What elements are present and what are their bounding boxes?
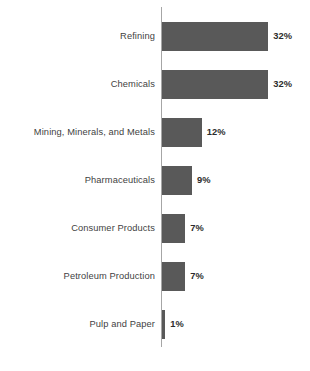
bar: [162, 22, 268, 51]
bar: [162, 262, 185, 291]
bar-value-label: 12%: [207, 108, 226, 156]
category-label: Pharmaceuticals: [85, 156, 155, 204]
bar-value-label: 7%: [190, 252, 204, 300]
category-label: Mining, Minerals, and Metals: [34, 108, 155, 156]
plot-area: Refining32%Chemicals32%Mining, Minerals,…: [0, 0, 310, 352]
bar-value-label: 32%: [273, 60, 292, 108]
bar-value-label: 1%: [170, 300, 184, 348]
bar: [162, 310, 165, 339]
bar-row: Refining32%: [0, 12, 310, 60]
category-label: Chemicals: [111, 60, 155, 108]
bar-row: Pharmaceuticals9%: [0, 156, 310, 204]
bar: [162, 118, 202, 147]
bar-row: Consumer Products7%: [0, 204, 310, 252]
bar: [162, 166, 192, 195]
bar-row: Pulp and Paper1%: [0, 300, 310, 348]
category-label: Refining: [120, 12, 155, 60]
category-label: Pulp and Paper: [90, 300, 156, 348]
bar-row: Mining, Minerals, and Metals12%: [0, 108, 310, 156]
horizontal-bar-chart: Refining32%Chemicals32%Mining, Minerals,…: [0, 0, 310, 371]
bar: [162, 214, 185, 243]
bar-row: Petroleum Production7%: [0, 252, 310, 300]
bar-row: Chemicals32%: [0, 60, 310, 108]
bar: [162, 70, 268, 99]
bar-value-label: 7%: [190, 204, 204, 252]
category-label: Petroleum Production: [64, 252, 155, 300]
bar-value-label: 32%: [273, 12, 292, 60]
bar-value-label: 9%: [197, 156, 211, 204]
cropped-caption-strip: [0, 358, 310, 371]
category-label: Consumer Products: [71, 204, 155, 252]
